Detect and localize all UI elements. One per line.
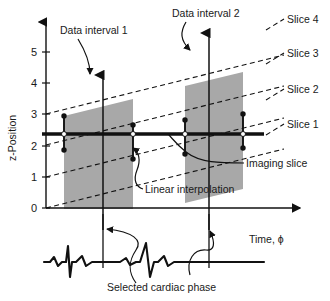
x-axis-title: Time, ϕ (249, 233, 284, 245)
y-tick-label-4: 4 (31, 77, 37, 89)
slice-line-4 (46, 55, 284, 114)
sample-point-filled (61, 147, 66, 152)
slice-label-1: Slice 1 (287, 118, 319, 130)
interpolated-point-open (62, 132, 67, 137)
sample-point-filled (182, 117, 187, 122)
interpolated-point-open (241, 132, 246, 137)
y-tick-label-1: 1 (31, 171, 37, 183)
y-tick-label-0: 0 (31, 202, 37, 214)
data-interval-bands (64, 72, 243, 233)
interpolated-point-open (183, 132, 188, 137)
slice-label-4: Slice 4 (287, 13, 319, 25)
annotation-data-interval-1: Data interval 1 (60, 24, 128, 74)
slice-label-leader-2 (266, 89, 284, 100)
selected-cardiac-phase-label: Selected cardiac phase (107, 281, 216, 293)
data-interval-2-label: Data interval 2 (172, 7, 240, 19)
slice-label-leader-4 (266, 19, 284, 30)
linear-interpolation-leader (133, 148, 143, 189)
cardiac-phase-leader-1 (107, 229, 138, 283)
ecg-phase-droplines (103, 214, 209, 268)
figure-canvas: 0 1 2 3 4 5 z-Position Time, ϕ (0, 0, 330, 301)
annotation-data-interval-2: Data interval 2 (172, 7, 240, 50)
sample-point-filled (61, 113, 66, 118)
y-tick-label-3: 3 (31, 108, 37, 120)
data-interval-1-label: Data interval 1 (60, 24, 128, 36)
y-tick-label-2: 2 (31, 140, 37, 152)
data-interval-1-leader (78, 39, 90, 74)
interpolated-point-open (131, 132, 136, 137)
sample-point-filled (130, 156, 135, 161)
ecg-waveform (44, 243, 264, 277)
y-tick-label-5: 5 (31, 46, 37, 58)
cardiac-phase-leader-2 (189, 231, 214, 275)
sample-point-filled (240, 145, 245, 150)
slice-label-3: Slice 3 (287, 47, 319, 59)
sample-point-filled (130, 122, 135, 127)
imaging-slice-label: Imaging slice (246, 157, 307, 169)
linear-interpolation-label: Linear interpolation (145, 183, 234, 195)
data-interval-1-band (64, 99, 133, 233)
slice-labels-group: Slice 4 Slice 3 Slice 2 Slice 1 (266, 13, 319, 135)
ecg-trace-group (44, 243, 264, 277)
data-interval-2-leader (182, 22, 190, 50)
y-axis-title: z-Position (6, 115, 18, 161)
sample-point-filled (240, 111, 245, 116)
figure-root: 0 1 2 3 4 5 z-Position Time, ϕ (0, 0, 330, 301)
slice-label-2: Slice 2 (287, 83, 319, 95)
slice-label-leader-1 (266, 124, 284, 135)
